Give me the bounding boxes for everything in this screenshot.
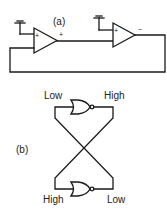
bottom-output-label: Low	[107, 194, 126, 205]
panel-b: (b) Low High High Low	[16, 90, 126, 205]
cross-wire-2	[55, 107, 113, 189]
top-input-label: Low	[44, 90, 63, 101]
panel-b-label: (b)	[16, 144, 28, 155]
nor-gate-top	[71, 100, 94, 114]
ground-icon	[15, 21, 34, 34]
circuit-diagram: (a) + + + −	[0, 0, 167, 224]
nor-gate-bottom	[71, 182, 94, 196]
ground-icon	[94, 16, 113, 30]
panel-a: (a) + + + −	[10, 16, 165, 72]
opamp-2-output-sign: −	[138, 26, 142, 33]
bottom-input-label: High	[43, 194, 64, 205]
opamp-1-input-sign: +	[35, 32, 39, 39]
opamp-2-input-sign: +	[114, 27, 118, 34]
opamp-1-output-sign: +	[59, 31, 63, 38]
panel-a-label: (a)	[53, 16, 65, 27]
top-output-label: High	[104, 90, 125, 101]
